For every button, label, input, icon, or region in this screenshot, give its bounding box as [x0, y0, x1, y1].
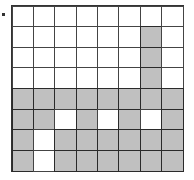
- grid-cell-r3-c2: [54, 67, 76, 89]
- grid-cell-r0-c3: [76, 6, 98, 28]
- grid-cell-r7-c0: [12, 150, 34, 172]
- grid-cell-r5-c6: [140, 109, 162, 131]
- grid-cell-r4-c5: [118, 88, 140, 110]
- grid-cell-r3-c3: [76, 67, 98, 89]
- grid-cell-r7-c3: [76, 150, 98, 172]
- grid-cell-r5-c7: [161, 109, 183, 131]
- grid-cell-r0-c7: [161, 6, 183, 28]
- grid-cell-r2-c4: [97, 47, 119, 69]
- grid-cell-r1-c2: [54, 26, 76, 48]
- grid-cell-r5-c5: [118, 109, 140, 131]
- grid-cell-r6-c6: [140, 129, 162, 151]
- grid-cell-r7-c2: [54, 150, 76, 172]
- grid-cell-r3-c4: [97, 67, 119, 89]
- grid-cell-r0-c5: [118, 6, 140, 28]
- grid-cell-r4-c3: [76, 88, 98, 110]
- grid-cell-r3-c5: [118, 67, 140, 89]
- grid-cell-r1-c0: [12, 26, 34, 48]
- grid-cell-r2-c7: [161, 47, 183, 69]
- grid-cell-r3-c0: [12, 67, 34, 89]
- grid-cell-r0-c6: [140, 6, 162, 28]
- grid-cell-r1-c7: [161, 26, 183, 48]
- grid-cell-r6-c2: [54, 129, 76, 151]
- grid-cell-r5-c1: [33, 109, 55, 131]
- grid-cell-r4-c0: [12, 88, 34, 110]
- grid-cell-r6-c0: [12, 129, 34, 151]
- grid-cell-r1-c1: [33, 26, 55, 48]
- grid-cell-r1-c3: [76, 26, 98, 48]
- grid-cell-r2-c1: [33, 47, 55, 69]
- grid-cell-r2-c6: [140, 47, 162, 69]
- grid-cell-r6-c5: [118, 129, 140, 151]
- grid-cell-r4-c1: [33, 88, 55, 110]
- grid-cell-r6-c4: [97, 129, 119, 151]
- grid-cell-r7-c7: [161, 150, 183, 172]
- grid-cell-r6-c1: [33, 129, 55, 151]
- grid-cell-r4-c2: [54, 88, 76, 110]
- grid-cell-r5-c4: [97, 109, 119, 131]
- grid-cell-r0-c2: [54, 6, 76, 28]
- grid-cell-r0-c4: [97, 6, 119, 28]
- grid-cell-r3-c7: [161, 67, 183, 89]
- grid-cell-r5-c2: [54, 109, 76, 131]
- grid-cell-r7-c1: [33, 150, 55, 172]
- bullet-marker: [2, 13, 5, 16]
- grid-cell-r0-c1: [33, 6, 55, 28]
- grid-cell-r2-c2: [54, 47, 76, 69]
- grid-cell-r2-c5: [118, 47, 140, 69]
- grid-cell-r4-c4: [97, 88, 119, 110]
- grid-cell-r5-c3: [76, 109, 98, 131]
- grid-cell-r1-c5: [118, 26, 140, 48]
- grid-cell-r7-c4: [97, 150, 119, 172]
- shaded-grid: [11, 5, 184, 172]
- grid-cell-r4-c7: [161, 88, 183, 110]
- grid-cell-r1-c4: [97, 26, 119, 48]
- grid-cell-r7-c6: [140, 150, 162, 172]
- grid-cell-r7-c5: [118, 150, 140, 172]
- grid-cell-r1-c6: [140, 26, 162, 48]
- grid-cell-r2-c3: [76, 47, 98, 69]
- grid-cell-r0-c0: [12, 6, 34, 28]
- grid-cell-r3-c6: [140, 67, 162, 89]
- grid-cell-r3-c1: [33, 67, 55, 89]
- grid-cell-r2-c0: [12, 47, 34, 69]
- grid-cell-r5-c0: [12, 109, 34, 131]
- grid-cell-r6-c3: [76, 129, 98, 151]
- grid-cell-r6-c7: [161, 129, 183, 151]
- grid-cell-r4-c6: [140, 88, 162, 110]
